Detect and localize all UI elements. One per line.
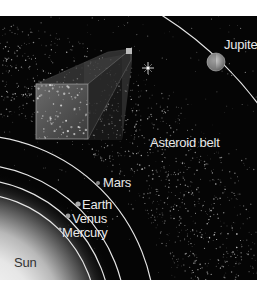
venus-label: Venus xyxy=(72,212,107,225)
jupiter-planet xyxy=(207,53,225,71)
bright-star-icon xyxy=(142,62,154,74)
solar-system-diagram: Jupiter Asteroid belt Mars Earth Venus M… xyxy=(0,16,257,280)
magnified-belt-inset xyxy=(36,48,132,140)
asteroid-belt-label: Asteroid belt xyxy=(150,136,220,149)
inset-source-square xyxy=(126,48,132,54)
mars-planet xyxy=(96,181,100,185)
earth-planet xyxy=(75,201,80,206)
jupiter-label: Jupiter xyxy=(224,38,257,51)
earth-label: Earth xyxy=(82,198,112,211)
sun-label: Sun xyxy=(14,256,37,269)
mercury-label: Mercury xyxy=(62,226,108,239)
mars-label: Mars xyxy=(103,176,131,189)
venus-planet xyxy=(66,214,71,219)
